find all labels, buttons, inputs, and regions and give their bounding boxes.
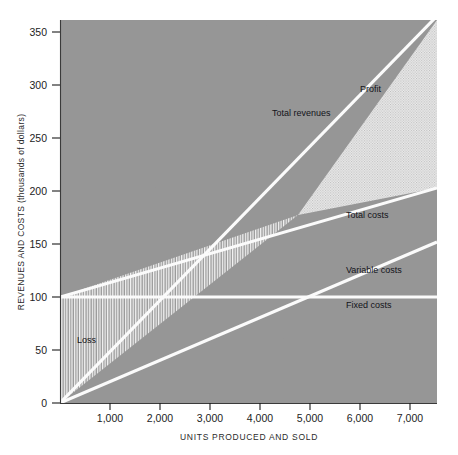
chart-canvas: 0 50 100 150 200 250 300 350 1,000 2,000… — [0, 0, 458, 455]
y-tick-label-350: 350 — [29, 26, 47, 38]
x-tick-label-4000: 4,000 — [247, 412, 273, 424]
y-tick-label-50: 50 — [35, 344, 47, 356]
y-tick-label-150: 150 — [29, 238, 47, 250]
annotation-loss-region: Loss — [77, 335, 97, 345]
annotation-fixed-costs: Fixed costs — [346, 300, 392, 310]
annotation-profit-region: Profit — [360, 84, 382, 94]
x-axis-title: UNITS PRODUCED AND SOLD — [180, 432, 318, 442]
y-tick-label-100: 100 — [29, 291, 47, 303]
annotation-total-revenues: Total revenues — [272, 108, 331, 118]
y-axis-title: REVENUES AND COSTS (thousands of dollars… — [16, 114, 26, 311]
x-tick-label-7000: 7,000 — [397, 412, 423, 424]
x-tick-label-3000: 3,000 — [197, 412, 223, 424]
y-tick-label-0: 0 — [41, 397, 47, 409]
y-tick-label-200: 200 — [29, 185, 47, 197]
y-tick-label-250: 250 — [29, 132, 47, 144]
annotation-total-costs: Total costs — [346, 210, 389, 220]
x-tick-label-1000: 1,000 — [97, 412, 123, 424]
x-tick-label-2000: 2,000 — [147, 412, 173, 424]
y-tick-label-300: 300 — [29, 79, 47, 91]
x-tick-label-5000: 5,000 — [297, 412, 323, 424]
annotation-variable-costs: Variable costs — [346, 265, 402, 275]
x-tick-label-6000: 6,000 — [347, 412, 373, 424]
break-even-chart: 0 50 100 150 200 250 300 350 1,000 2,000… — [0, 0, 458, 455]
